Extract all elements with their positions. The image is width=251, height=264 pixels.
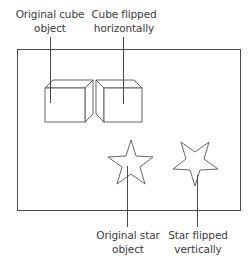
label-cube-flipped: Cube flipped horizontally [78,7,170,35]
original-star-object[interactable] [108,140,153,184]
label-line-2: vertically [152,242,244,256]
original-cube-object[interactable] [45,80,93,122]
flipped-star-object[interactable] [173,142,218,186]
label-line-1: Cube flipped [78,7,170,21]
label-line-2: horizontally [78,21,170,35]
label-line-1: Star flipped [152,228,244,242]
label-star-flipped: Star flipped vertically [152,228,244,256]
diagram-canvas [0,0,251,264]
flipped-cube-object[interactable] [96,80,142,122]
